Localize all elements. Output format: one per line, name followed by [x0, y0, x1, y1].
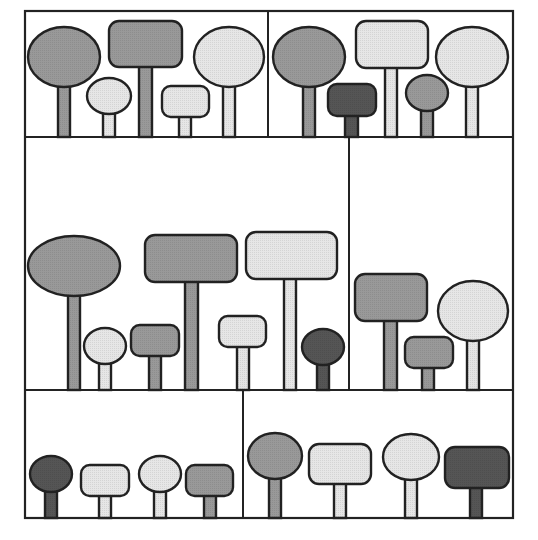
trunk-texture — [466, 85, 478, 137]
panel-top-left — [28, 21, 264, 137]
trunk-texture — [103, 112, 115, 137]
trunk-texture — [179, 115, 191, 137]
panel-top-right — [273, 21, 508, 137]
crown-texture — [139, 456, 181, 492]
crown-texture — [406, 75, 448, 111]
trunk-texture — [185, 280, 198, 390]
crown-texture — [246, 232, 337, 279]
crown-texture — [328, 84, 376, 116]
crown-texture — [194, 27, 264, 87]
crown-texture — [28, 27, 100, 87]
crown-texture — [109, 21, 182, 67]
trunk-texture — [317, 363, 329, 390]
crown-texture — [84, 328, 126, 364]
trunk-texture — [149, 354, 161, 390]
trunk-texture — [467, 339, 479, 390]
crown-texture — [356, 21, 428, 68]
trunk-texture — [284, 277, 296, 390]
crown-texture — [145, 235, 237, 282]
crown-texture — [302, 329, 344, 365]
crown-texture — [87, 78, 131, 114]
trunk-texture — [204, 494, 216, 518]
trunk-texture — [99, 494, 111, 518]
trunk-texture — [269, 477, 281, 518]
crown-texture — [28, 236, 120, 296]
crown-texture — [355, 274, 427, 321]
trunk-texture — [139, 65, 152, 137]
trunk-texture — [68, 294, 80, 390]
trunk-texture — [237, 345, 249, 390]
crown-texture — [445, 447, 509, 488]
trunk-texture — [422, 366, 434, 390]
trunk-texture — [405, 478, 417, 518]
crown-texture — [186, 465, 233, 496]
crown-texture — [273, 27, 345, 87]
trunk-texture — [345, 114, 358, 137]
trunk-texture — [384, 319, 397, 390]
trunk-texture — [58, 85, 70, 137]
trunk-texture — [99, 362, 111, 390]
crown-texture — [383, 434, 439, 480]
panel-middle-left — [28, 232, 344, 390]
crown-texture — [81, 465, 129, 496]
crown-texture — [438, 281, 508, 341]
trunk-texture — [421, 109, 433, 137]
crown-texture — [248, 433, 302, 479]
trunk-texture — [303, 85, 315, 137]
crown-texture — [309, 444, 371, 484]
crown-texture — [436, 27, 508, 87]
crown-texture — [219, 316, 266, 347]
trunk-texture — [470, 486, 482, 518]
tree-grid-figure — [0, 0, 538, 540]
trunk-texture — [223, 85, 235, 137]
trunk-texture — [385, 66, 397, 137]
crown-texture — [131, 325, 179, 356]
trunk-texture — [154, 490, 166, 518]
crown-texture — [30, 456, 72, 492]
trunk-texture — [334, 482, 346, 518]
crown-texture — [162, 86, 209, 117]
trunk-texture — [45, 490, 57, 518]
crown-texture — [405, 337, 453, 368]
